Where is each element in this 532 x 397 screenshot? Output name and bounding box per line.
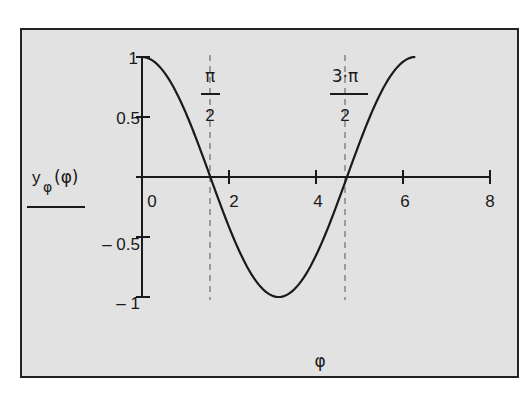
x-tick-label-8: 8 [485,192,494,211]
x-axis-label: φ [314,351,325,371]
y-axis-label-arg: (φ) [54,167,78,187]
x-tick-label-4: 4 [313,192,322,211]
x-tick-label-2: 2 [229,192,238,211]
annotation-pi-denominator: 2 [205,106,214,125]
y-tick-label-1: 1 [129,49,138,68]
y-tick-label-0.5: 0.5 [116,109,140,128]
y-axis-label-subscript: φ [43,179,52,195]
annotation-3pi-numerator: 3·π [332,66,358,86]
annotation-pi-numerator: π [205,66,215,86]
y-axis-label-main: y [32,168,41,187]
x-tick-label-6: 6 [400,192,409,211]
x-tick-label-0: 0 [147,192,156,211]
y-tick-label-neg1: – 1 [116,294,140,313]
annotation-3pi-denominator: 2 [340,106,349,125]
plot-svg: 1 0.5 – 0.5 – 1 0 2 4 6 8 π 2 3·π 2 y φ … [0,0,532,397]
y-tick-label-neg0.5: – 0.5 [102,235,140,254]
